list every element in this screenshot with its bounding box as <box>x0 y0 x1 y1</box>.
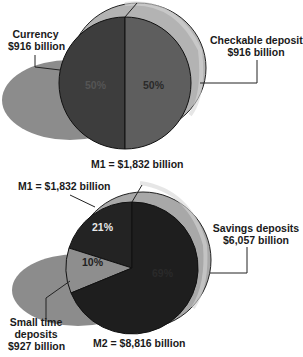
currency-name: Currency <box>8 28 63 40</box>
leader-m1 <box>70 195 95 207</box>
label-m1: M1 = $1,832 billion <box>18 180 111 192</box>
label-checkable-deposits: Checkable deposits $916 billion <box>210 34 302 58</box>
checkable-percent: 50% <box>143 79 164 91</box>
label-currency: Currency $916 billion <box>8 28 63 52</box>
m2-total-label: M2 = $8,816 billion <box>93 337 186 349</box>
currency-percent: 50% <box>85 79 106 91</box>
m1-pie-chart: Currency $916 billion Checkable deposits… <box>0 0 303 175</box>
label-savings-deposits: Savings deposits $6,057 billion <box>210 222 302 246</box>
small-time-percent: 10% <box>82 256 103 268</box>
savings-percent: 69% <box>152 267 173 279</box>
m1-percent: 21% <box>92 221 113 233</box>
small-time-name-line1: Small time <box>8 316 64 328</box>
checkable-name: Checkable deposits <box>210 34 302 46</box>
small-time-name-line2: deposits <box>8 328 64 340</box>
currency-value: $916 billion <box>8 40 63 52</box>
leader-checkable <box>200 60 257 83</box>
checkable-value: $916 billion <box>210 46 302 58</box>
leader-savings <box>210 247 247 273</box>
savings-name: Savings deposits <box>210 222 302 234</box>
m1-total-label: M1 = $1,832 billion <box>91 158 184 170</box>
label-small-time-deposits: Small time deposits $927 billion <box>8 316 64 352</box>
savings-value: $6,057 billion <box>210 234 302 246</box>
m2-pie-chart: M1 = $1,832 billion 21% 10% 69% Savings … <box>0 175 303 357</box>
small-time-value: $927 billion <box>8 340 64 352</box>
